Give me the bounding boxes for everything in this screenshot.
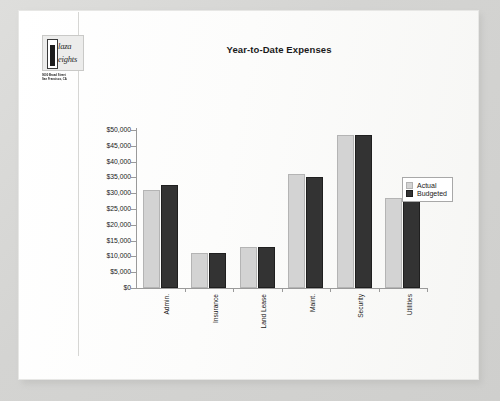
y-axis-tick-label: $30,000 xyxy=(106,189,131,196)
x-axis-category-label: Land Lease xyxy=(260,294,267,328)
x-axis-tick xyxy=(379,288,380,292)
x-axis-tick xyxy=(282,288,283,292)
bar-budgeted xyxy=(403,196,420,288)
y-axis-tick xyxy=(131,288,136,289)
x-axis-category-label: Maint. xyxy=(309,294,316,312)
y-axis-tick-label: $10,000 xyxy=(106,252,131,259)
y-axis-tick-label: $0 xyxy=(123,284,131,291)
bar-group xyxy=(191,130,226,288)
bar-actual xyxy=(143,190,160,288)
y-axis-tick-label: $50,000 xyxy=(106,126,131,133)
x-axis-tick xyxy=(185,288,186,292)
y-axis-tick-label: $45,000 xyxy=(106,142,131,149)
legend-item: Budgeted xyxy=(406,190,447,197)
bar-budgeted xyxy=(161,185,178,288)
y-axis-tick-label: $35,000 xyxy=(106,173,131,180)
x-axis-tick xyxy=(427,288,428,292)
chart-legend: ActualBudgeted xyxy=(402,177,453,202)
bar-group xyxy=(240,130,275,288)
bar-actual xyxy=(337,135,354,288)
y-axis-tick-label: $5,000 xyxy=(110,268,131,275)
bars-layer xyxy=(136,130,427,288)
bar-actual xyxy=(240,247,257,288)
screenshot-root: laza eights 9000 Broad Street San Franci… xyxy=(0,0,500,401)
legend-label: Actual xyxy=(417,182,436,189)
bar-actual xyxy=(385,198,402,288)
x-axis-category-label: Admin. xyxy=(163,294,170,315)
legend-swatch-actual xyxy=(406,182,413,189)
document-page: laza eights 9000 Broad Street San Franci… xyxy=(19,11,478,379)
bar-actual xyxy=(191,253,208,288)
legend-item: Actual xyxy=(406,182,447,189)
bar-group xyxy=(337,130,372,288)
bar-group xyxy=(288,130,323,288)
bar-budgeted xyxy=(258,247,275,288)
bar-group xyxy=(385,130,420,288)
x-axis-tick xyxy=(330,288,331,292)
x-axis-category-label: Security xyxy=(357,294,364,318)
y-axis-tick-label: $15,000 xyxy=(106,237,131,244)
bar-budgeted xyxy=(306,177,323,288)
bar-budgeted xyxy=(355,135,372,288)
y-axis-tick-label: $40,000 xyxy=(106,158,131,165)
x-axis-tick xyxy=(233,288,234,292)
x-axis-category-label: Insurance xyxy=(212,294,219,323)
y-axis-tick-label: $20,000 xyxy=(106,221,131,228)
bar-budgeted xyxy=(209,253,226,288)
y-axis-tick-label: $25,000 xyxy=(106,205,131,212)
bar-actual xyxy=(288,174,305,288)
x-axis-category-label: Utilities xyxy=(406,294,413,315)
bar-group xyxy=(143,130,178,288)
legend-swatch-budgeted xyxy=(406,190,413,197)
legend-label: Budgeted xyxy=(417,190,447,197)
